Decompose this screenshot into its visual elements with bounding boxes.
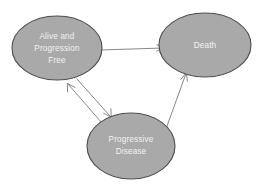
node-alive-progression-free-label-line1: Alive and: [39, 32, 74, 41]
node-progressive-disease-label-line2: Disease: [116, 147, 147, 156]
node-death[interactable]: Death: [159, 13, 251, 77]
diagram-canvas: Alive and Progression Free Death Progres…: [0, 0, 260, 189]
edge-alive-to-progressive[interactable]: [77, 79, 112, 118]
edge-alive-to-progressive-line: [77, 79, 111, 117]
edge-progressive-to-death[interactable]: [167, 73, 188, 128]
edge-alive-to-death[interactable]: [100, 45, 163, 52]
edge-progressive-to-death-line: [167, 74, 187, 128]
edge-progressive-to-alive-line: [68, 84, 102, 123]
edge-progressive-to-alive[interactable]: [67, 83, 101, 122]
node-alive-progression-free-label-line3: Free: [48, 56, 66, 65]
node-progressive-disease-shape: [87, 113, 175, 179]
state-transition-diagram: Alive and Progression Free Death Progres…: [0, 0, 260, 189]
node-progressive-disease[interactable]: Progressive Disease: [87, 113, 175, 179]
node-alive-progression-free-label-line2: Progression: [34, 44, 80, 53]
node-alive-progression-free[interactable]: Alive and Progression Free: [12, 16, 102, 80]
edge-alive-to-death-line: [100, 48, 163, 50]
node-death-label: Death: [194, 41, 217, 50]
node-progressive-disease-label-line1: Progressive: [109, 135, 154, 144]
